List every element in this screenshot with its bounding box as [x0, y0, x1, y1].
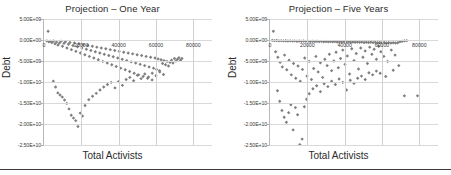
x-gridline [156, 19, 157, 145]
y-gridline [270, 40, 438, 41]
y-tick-label: 0.00E+00 [245, 37, 267, 43]
y-tick-label: 5.00E+09 [245, 16, 267, 22]
x-tick-label: 40000 [111, 42, 125, 48]
x-gridline [193, 19, 194, 145]
x-tick-label: 20000 [74, 42, 88, 48]
y-tick-mark [267, 19, 270, 20]
x-gridline [307, 19, 308, 145]
y-gridline [270, 124, 438, 125]
x-tick-label: 80000 [412, 42, 426, 48]
y-gridline [44, 40, 212, 41]
y-tick-mark [267, 145, 270, 146]
x-gridline [345, 19, 346, 145]
x-gridline [81, 19, 82, 145]
y-gridline [270, 61, 438, 62]
y-tick-label: -1.00E+10 [18, 79, 41, 85]
y-tick-mark [267, 82, 270, 83]
chart-panel-one-year: Projection – One Year Debt 5.00E+090.00E… [0, 0, 225, 162]
y-tick-label: -5.00E+09 [244, 58, 267, 64]
x-gridline [382, 19, 383, 145]
y-gridline [44, 103, 212, 104]
y-gridline [44, 61, 212, 62]
y-tick-mark [267, 40, 270, 41]
figure-two-scatter-plots: Projection – One Year Debt 5.00E+090.00E… [0, 0, 451, 175]
y-tick-mark [41, 103, 44, 104]
x-axis-title-right: Total Activists [226, 150, 451, 161]
y-gridline [270, 19, 438, 20]
y-tick-mark [41, 145, 44, 146]
plot-area-five-years: 5.00E+090.00E+00-5.00E+09-1.00E+10-1.50E… [269, 19, 438, 145]
x-tick-label: 0 [43, 42, 46, 48]
x-tick-label: 40000 [337, 42, 351, 48]
y-tick-mark [267, 61, 270, 62]
plot-area-one-year: 5.00E+090.00E+00-5.00E+09-1.00E+10-1.50E… [43, 19, 212, 145]
y-tick-label: 5.00E+09 [19, 16, 41, 22]
y-tick-mark [267, 124, 270, 125]
y-gridline [44, 19, 212, 20]
y-tick-label: -2.00E+10 [244, 121, 267, 127]
footer-divider-rule [0, 169, 451, 170]
y-tick-mark [41, 40, 44, 41]
y-tick-mark [267, 103, 270, 104]
x-gridline [119, 19, 120, 145]
y-tick-label: -2.00E+10 [18, 121, 41, 127]
x-tick-label: 0 [269, 42, 272, 48]
chart-title-five-years: Projection – Five Years [226, 3, 451, 14]
x-tick-label: 60000 [375, 42, 389, 48]
chart-title-one-year: Projection – One Year [0, 3, 225, 14]
y-tick-mark [41, 124, 44, 125]
x-tick-label: 80000 [186, 42, 200, 48]
x-tick-label: 60000 [149, 42, 163, 48]
chart-panel-five-years: Projection – Five Years Debt 5.00E+090.0… [226, 0, 451, 162]
y-gridline [44, 145, 212, 146]
y-gridline [44, 124, 212, 125]
x-gridline [419, 19, 420, 145]
y-tick-mark [41, 61, 44, 62]
y-tick-label: -1.50E+10 [18, 100, 41, 106]
x-axis-title-left: Total Activists [0, 150, 225, 161]
y-tick-label: -2.50E+10 [18, 142, 41, 148]
y-tick-label: -1.50E+10 [244, 100, 267, 106]
y-tick-label: -2.50E+10 [244, 142, 267, 148]
x-tick-label: 20000 [300, 42, 314, 48]
y-tick-label: -5.00E+09 [18, 58, 41, 64]
y-gridline [270, 103, 438, 104]
y-gridline [270, 82, 438, 83]
y-tick-mark [41, 82, 44, 83]
y-gridline [270, 145, 438, 146]
y-gridline [44, 82, 212, 83]
y-tick-label: -1.00E+10 [244, 79, 267, 85]
y-tick-mark [41, 19, 44, 20]
y-axis-title-right: Debt [227, 43, 238, 93]
y-axis-title-left: Debt [1, 43, 12, 93]
y-tick-label: 0.00E+00 [19, 37, 41, 43]
